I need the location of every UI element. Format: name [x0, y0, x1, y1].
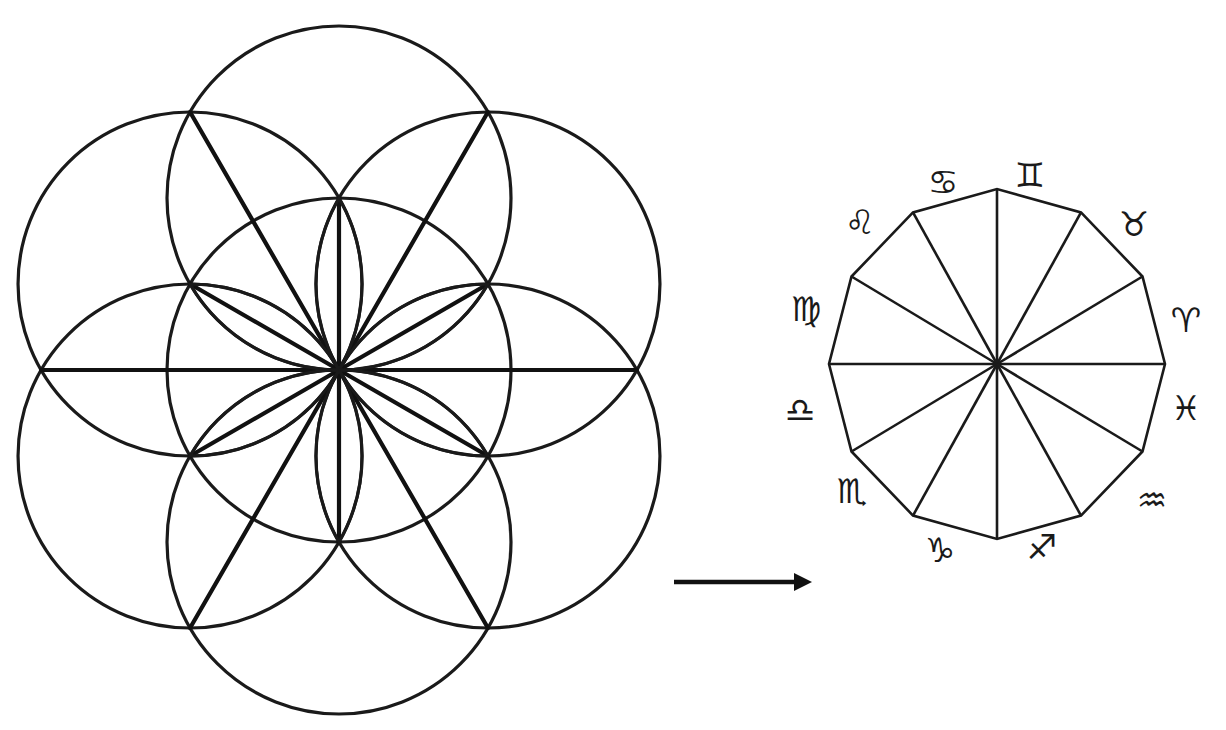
diagram-canvas: [0, 0, 1226, 730]
radial-line: [339, 112, 488, 370]
libra-icon: ♎︎: [785, 393, 815, 427]
aries-icon: ♈︎: [1171, 303, 1201, 337]
capricorn-icon: ♑︎: [925, 533, 955, 567]
radial-line: [190, 112, 339, 370]
radial-line: [190, 370, 339, 628]
wheel-spoke: [997, 364, 1081, 516]
gemini-icon: ♊︎: [1015, 158, 1045, 192]
taurus-icon: ♉︎: [1119, 207, 1149, 241]
radial-line: [339, 370, 488, 628]
virgo-icon: ♍︎: [791, 292, 821, 326]
wheel-spoke: [997, 212, 1081, 364]
cancer-icon: ♋︎: [928, 165, 958, 199]
wheel-spoke: [997, 277, 1142, 365]
dodecagon-wheel: [829, 189, 1165, 539]
aquarius-icon: ♒︎: [1137, 483, 1167, 517]
leo-icon: ♌︎: [845, 205, 875, 239]
pisces-icon: ♓︎: [1171, 391, 1201, 425]
wheel-spoke: [852, 364, 997, 452]
right-arrow-icon: [674, 573, 812, 591]
wheel-spoke: [852, 277, 997, 365]
wheel-spoke: [913, 212, 997, 364]
sagittarius-icon: ♐︎: [1027, 530, 1057, 564]
wheel-spoke: [913, 364, 997, 516]
wheel-spoke: [997, 364, 1142, 452]
scorpio-icon: ♏︎: [837, 474, 867, 508]
